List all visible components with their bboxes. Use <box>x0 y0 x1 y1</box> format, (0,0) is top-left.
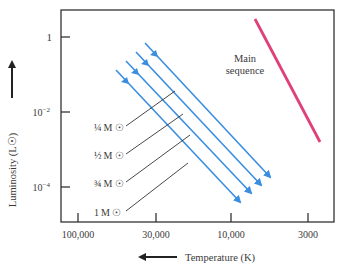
main-sequence-label: Main <box>234 53 257 64</box>
track-three-quarter-solar-mass <box>126 61 251 193</box>
track-one-solar-mass <box>116 70 240 202</box>
mass-label-half: ½M ☉ <box>94 150 124 161</box>
x-tick-label-100000: 100,000 <box>62 229 95 240</box>
main-sequence-label-2: sequence <box>226 65 265 76</box>
mass-label-quarter: ¼M ☉ <box>94 122 124 133</box>
mass-label-one: 1M ☉ <box>94 207 121 218</box>
white-dwarf-cooling-diagram: 1 10−2 10−4 100,000 30,000 10,000 3000 T… <box>0 0 344 268</box>
y-axis-ticks <box>61 37 70 187</box>
y-tick-label-1e-4: 10−4 <box>33 181 51 193</box>
y-tick-label-1e-2: 10−2 <box>33 106 51 118</box>
y-axis-label: Luminosity (L☉) <box>7 132 19 207</box>
x-tick-label-10000: 10,000 <box>217 229 245 240</box>
main-sequence-line <box>255 19 320 142</box>
x-tick-label-30000: 30,000 <box>142 229 170 240</box>
x-axis-label: Temperature (K) <box>185 252 256 264</box>
label-connectors <box>126 91 190 211</box>
mass-label-three-quarter: ¾M ☉ <box>94 178 124 189</box>
y-tick-label-1: 1 <box>47 31 53 43</box>
x-tick-label-3000: 3000 <box>298 229 318 240</box>
plot-frame <box>61 10 334 222</box>
